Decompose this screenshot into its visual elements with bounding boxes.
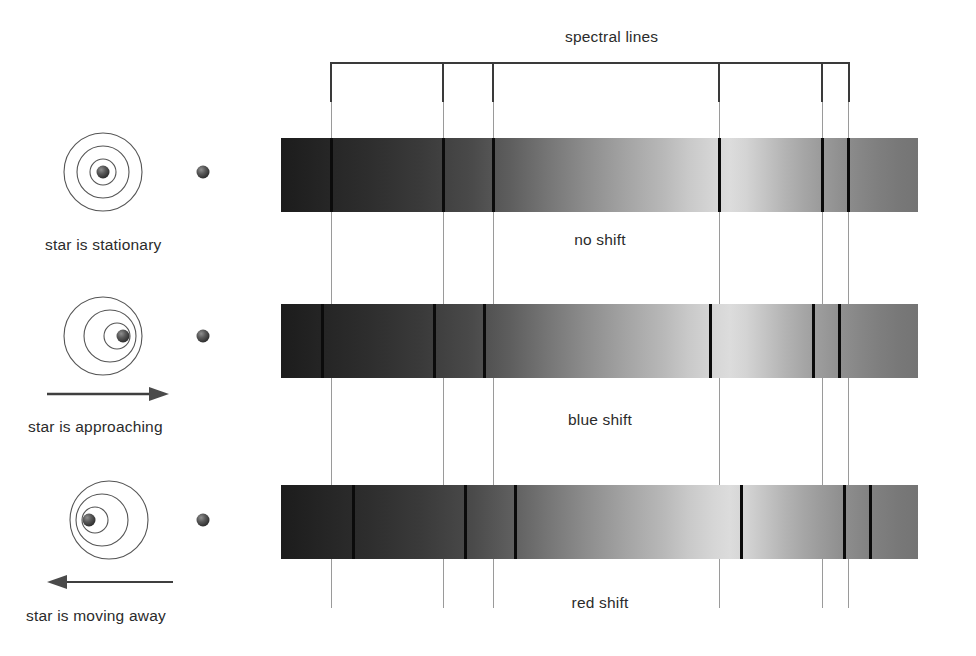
bracket-tick <box>442 62 444 102</box>
bracket-tick <box>330 62 332 102</box>
spectrum-gradient <box>281 304 918 378</box>
caption-stationary: star is stationary <box>45 236 161 254</box>
arrow-right-icon <box>47 387 169 401</box>
spectrum-gradient <box>281 485 918 559</box>
absorption-line <box>514 485 517 559</box>
spectrum-band-red-shift <box>281 485 918 559</box>
star-sphere-icon <box>97 166 110 179</box>
absorption-line <box>352 485 355 559</box>
star-sphere-icon <box>83 514 96 527</box>
caption-approaching: star is approaching <box>28 418 163 436</box>
caption-receding: star is moving away <box>26 607 166 625</box>
approaching-wave-diagram <box>45 288 275 413</box>
band-label-blue-shift: blue shift <box>520 411 680 429</box>
doppler-diagram: spectral lines no shift blue shi <box>0 0 976 656</box>
bracket-spine <box>330 62 850 64</box>
absorption-line <box>718 138 721 212</box>
star-panel-approaching <box>45 288 275 413</box>
spectral-lines-title: spectral lines <box>565 28 658 46</box>
absorption-line <box>838 304 841 378</box>
star-sphere-icon <box>117 330 130 343</box>
absorption-line <box>492 138 495 212</box>
bracket-tick <box>821 62 823 102</box>
spectrum-band-no-shift <box>281 138 918 212</box>
observer-dot-icon <box>197 166 210 179</box>
bracket-tick <box>492 62 494 102</box>
band-label-no-shift: no shift <box>520 231 680 249</box>
bracket-tick <box>718 62 720 102</box>
absorption-line <box>821 138 824 212</box>
band-label-red-shift: red shift <box>520 594 680 612</box>
absorption-line <box>483 304 486 378</box>
absorption-line <box>843 485 846 559</box>
bracket-tick <box>848 62 850 102</box>
stationary-wave-diagram <box>45 125 275 235</box>
absorption-line <box>442 138 445 212</box>
absorption-line <box>847 138 850 212</box>
star-panel-receding <box>45 472 275 602</box>
absorption-line <box>433 304 436 378</box>
absorption-line <box>464 485 467 559</box>
observer-dot-icon <box>197 514 210 527</box>
absorption-line <box>330 138 333 212</box>
spectrum-band-blue-shift <box>281 304 918 378</box>
arrow-left-icon <box>47 575 173 589</box>
absorption-line <box>869 485 872 559</box>
observer-dot-icon <box>197 330 210 343</box>
absorption-line <box>709 304 712 378</box>
star-panel-stationary <box>45 125 275 235</box>
receding-wave-diagram <box>45 472 275 602</box>
absorption-line <box>812 304 815 378</box>
absorption-line <box>740 485 743 559</box>
absorption-line <box>321 304 324 378</box>
